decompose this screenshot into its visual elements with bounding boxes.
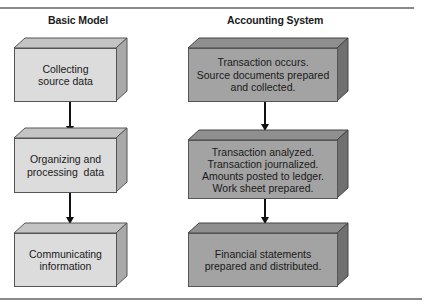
arrow-down-icon (69, 193, 71, 223)
basic-step-organizing: Organizing andprocessing data (14, 127, 127, 193)
accounting-step-analyze-journalize-post: Transaction analyzed.Transaction journal… (188, 129, 348, 199)
top-divider (0, 7, 414, 9)
step-label: Organizing andprocessing data (14, 138, 117, 193)
arrow-down-icon (264, 199, 266, 223)
arrow-down-icon (264, 102, 266, 130)
accounting-step-financial-statements: Financial statementsprepared and distrib… (188, 222, 348, 287)
step-label: Transaction analyzed.Transaction journal… (188, 140, 338, 199)
basic-step-communicating: Communicatinginformation (14, 222, 127, 287)
column-title-basic-model: Basic Model (48, 14, 108, 26)
step-label: Collectingsource data (14, 48, 117, 102)
column-title-accounting-system: Accounting System (227, 14, 323, 26)
step-label: Communicatinginformation (14, 233, 117, 287)
basic-step-collecting: Collectingsource data (14, 37, 127, 102)
bottom-divider (0, 298, 422, 300)
step-label: Transaction occurs.Source documents prep… (188, 48, 338, 102)
step-label: Financial statementsprepared and distrib… (188, 233, 338, 287)
accounting-step-transaction-occurs: Transaction occurs.Source documents prep… (188, 37, 348, 102)
